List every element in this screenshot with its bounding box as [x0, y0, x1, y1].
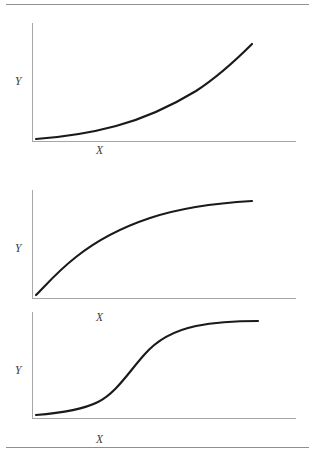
- y-axis-label-logarithmic: Y: [15, 243, 22, 255]
- top-divider-rule: [6, 4, 309, 5]
- axis-sigmoid: [33, 312, 297, 419]
- axis-exponential: [33, 23, 297, 142]
- y-axis-label-sigmoid: Y: [15, 365, 22, 377]
- bottom-divider-rule: [6, 447, 309, 448]
- plot-area-sigmoid: [0, 303, 315, 453]
- figure-page: Y X Y X Y X: [0, 0, 315, 462]
- curve-exponential: [36, 44, 252, 139]
- x-axis-label-exponential: X: [0, 145, 315, 157]
- axis-logarithmic: [33, 190, 297, 299]
- panel-sigmoid: Y X: [0, 303, 315, 453]
- x-axis-label-sigmoid: X: [0, 434, 315, 446]
- panel-exponential: Y X: [0, 14, 315, 164]
- curve-logarithmic: [36, 201, 252, 295]
- y-axis-label-exponential: Y: [15, 76, 22, 88]
- plot-area-exponential: [0, 14, 315, 164]
- curve-sigmoid: [36, 321, 258, 415]
